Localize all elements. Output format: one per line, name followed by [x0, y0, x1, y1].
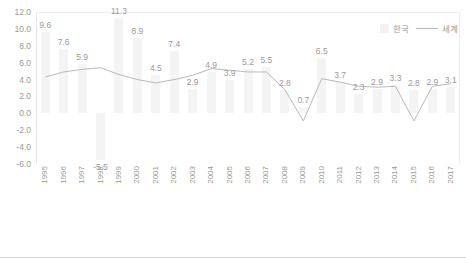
- legend-label-world: 세계: [442, 22, 458, 34]
- y-axis-tick: 6.0: [19, 59, 31, 68]
- y-axis-tick: -2.0: [16, 126, 31, 135]
- data-label: 7.4: [168, 40, 180, 49]
- y-axis-tick: -4.0: [16, 143, 31, 152]
- data-label: 3.1: [445, 76, 457, 85]
- y-axis-tick: 8.0: [19, 42, 31, 51]
- y-axis-tick: 10.0: [14, 25, 31, 34]
- x-axis-tick: 2006: [244, 166, 252, 184]
- data-label: 5.5: [261, 56, 273, 65]
- plot-area: 9.67.65.9-5.511.38.94.57.42.94.93.95.25.…: [36, 12, 460, 164]
- bottom-divider: [0, 257, 466, 258]
- x-axis-tick: 2008: [281, 166, 289, 184]
- data-label: 2.9: [426, 78, 438, 87]
- legend-item-world[interactable]: 세계: [416, 22, 458, 34]
- x-axis-tick: 2009: [299, 166, 307, 184]
- x-axis-tick: 2016: [428, 166, 436, 184]
- x-axis-tick: 2001: [152, 166, 160, 184]
- data-label: 4.5: [150, 64, 162, 73]
- data-label: 5.9: [76, 53, 88, 62]
- x-axis-tick: 2004: [207, 166, 215, 184]
- x-axis-tick: 1998: [97, 166, 105, 184]
- x-axis-tick: 1999: [115, 166, 123, 184]
- y-axis-tick: 2.0: [19, 92, 31, 101]
- x-axis-tick: 2013: [373, 166, 381, 184]
- data-label: 2.8: [408, 79, 420, 88]
- x-axis-tick: 2015: [410, 166, 418, 184]
- x-axis-tick: 2007: [262, 166, 270, 184]
- y-axis-tick: -6.0: [16, 160, 31, 169]
- legend-label-korea: 한국: [393, 22, 409, 34]
- x-axis-tick: 1995: [41, 166, 49, 184]
- x-axis-tick: 1997: [78, 166, 86, 184]
- data-label: 3.7: [334, 71, 346, 80]
- chart-legend: 한국 세계: [380, 22, 458, 34]
- x-axis-tick: 2017: [447, 166, 455, 184]
- data-label: 0.7: [297, 96, 309, 105]
- y-axis: 12.010.08.06.04.02.00.0-2.0-4.0-6.0: [0, 0, 34, 264]
- data-label: 5.2: [242, 58, 254, 67]
- x-axis-tick: 2002: [170, 166, 178, 184]
- legend-item-korea[interactable]: 한국: [380, 22, 409, 34]
- x-axis-tick: 2000: [133, 166, 141, 184]
- data-labels: 9.67.65.9-5.511.38.94.57.42.94.93.95.25.…: [36, 12, 460, 164]
- y-axis-tick: 4.0: [19, 76, 31, 85]
- x-axis-tick: 2011: [336, 166, 344, 183]
- x-axis-tick: 2014: [391, 166, 399, 184]
- legend-bar-swatch-icon: [380, 24, 389, 33]
- data-label: 2.9: [187, 78, 199, 87]
- data-label: 9.6: [39, 21, 51, 30]
- data-label: 3.9: [224, 69, 236, 78]
- y-axis-tick: 12.0: [14, 8, 31, 17]
- data-label: 11.3: [111, 7, 127, 16]
- data-label: 2.8: [279, 79, 291, 88]
- x-axis-tick: 2003: [189, 166, 197, 184]
- y-axis-tick: 0.0: [19, 109, 31, 118]
- x-axis-tick: 2012: [355, 166, 363, 184]
- x-axis-tick: 2010: [318, 166, 326, 184]
- data-label: 2.9: [371, 78, 383, 87]
- x-axis: 1995199619971998199920002001200220032004…: [36, 166, 460, 206]
- data-label: 2.3: [353, 83, 365, 92]
- data-label: 3.3: [390, 74, 402, 83]
- legend-line-swatch-icon: [416, 28, 438, 29]
- data-label: 7.6: [58, 38, 70, 47]
- data-label: 6.5: [316, 47, 328, 56]
- x-axis-tick: 2005: [226, 166, 234, 184]
- chart-container: 12.010.08.06.04.02.00.0-2.0-4.0-6.0 9.67…: [0, 0, 466, 264]
- data-label: 4.9: [205, 61, 217, 70]
- x-axis-tick: 1996: [60, 166, 68, 184]
- data-label: 8.9: [131, 27, 143, 36]
